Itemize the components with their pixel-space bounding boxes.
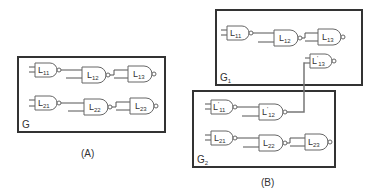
caption-a: (A) xyxy=(81,148,94,159)
gate-b-l23: L23 xyxy=(305,134,332,150)
panel-b: L11 L12 L13 L'13 G1 xyxy=(193,10,362,188)
group-g1-label: G1 xyxy=(220,72,232,84)
gate-l22: L22 xyxy=(84,99,112,115)
wire-l12-l13 xyxy=(110,70,128,75)
gate-l12: L12 xyxy=(82,67,110,83)
gate-b-l12: L12 xyxy=(274,30,302,46)
gate-b-l12-prime: L'12 xyxy=(259,104,287,120)
wire-l22-l23 xyxy=(112,102,130,107)
gate-b-l13: L13 xyxy=(318,29,345,45)
inter-group-connector xyxy=(287,63,305,112)
gate-l11: L11 xyxy=(29,63,61,77)
group-g1-box xyxy=(216,10,362,85)
diagram-canvas: L11 L12 L13 L21 L22 xyxy=(0,0,378,194)
gate-l23: L23 xyxy=(130,98,158,114)
caption-b: (B) xyxy=(261,177,274,188)
group-g2-label: G2 xyxy=(197,154,209,166)
gate-b-l11-prime: L'11 xyxy=(205,100,237,114)
gate-l13: L13 xyxy=(128,66,156,82)
gate-b-l11: L11 xyxy=(221,26,253,40)
gate-b-l22: L22 xyxy=(259,135,287,151)
gate-l21: L21 xyxy=(29,96,61,110)
group-g-label: G xyxy=(22,119,30,130)
gate-b-l13-prime: L'13 xyxy=(305,54,336,68)
panel-a: L11 L12 L13 L21 L22 xyxy=(18,57,165,159)
gate-b-l21: L21 xyxy=(205,131,237,145)
